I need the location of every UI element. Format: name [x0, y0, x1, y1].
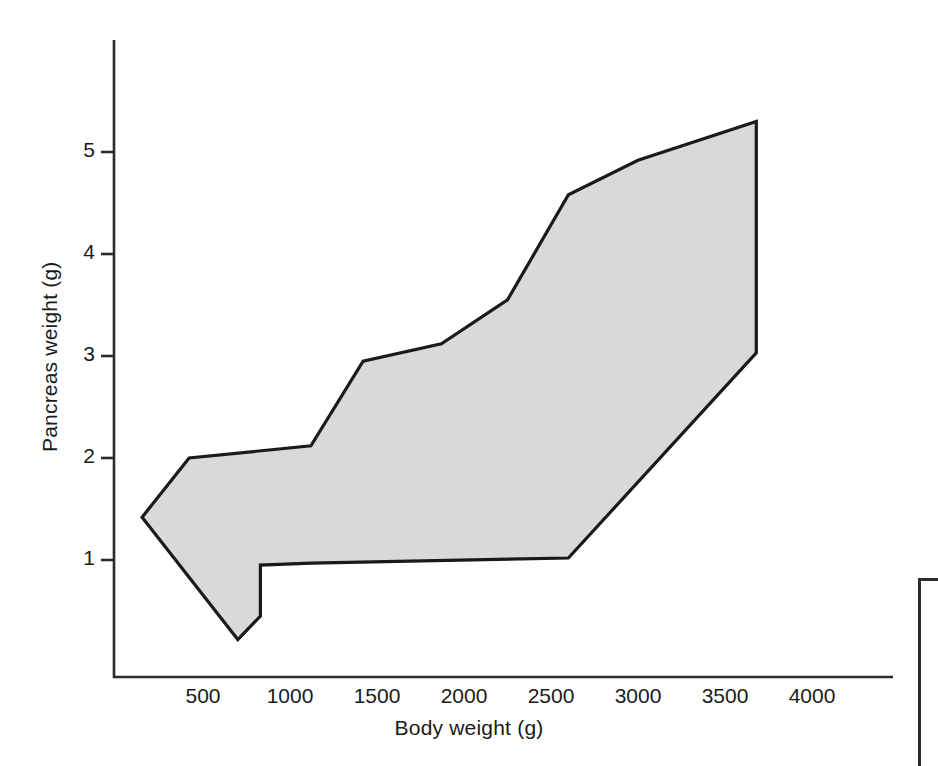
figure-panel: 5001000150020002500300035004000 12345 Bo… [0, 0, 938, 766]
x-tick-label-3000: 3000 [593, 684, 683, 708]
y-tick-label-4: 4 [55, 240, 95, 264]
y-tick-label-1: 1 [55, 546, 95, 570]
x-tick-label-3500: 3500 [680, 684, 770, 708]
x-tick-label-2500: 2500 [506, 684, 596, 708]
y-axis-tick-marks [101, 152, 114, 560]
chart-canvas [0, 0, 938, 766]
y-axis-title: Pancreas weight (g) [38, 261, 62, 452]
x-axis-title: Body weight (g) [0, 716, 938, 740]
adjacent-figure-frame-top [918, 578, 938, 581]
y-tick-label-5: 5 [55, 138, 95, 162]
x-tick-label-1500: 1500 [332, 684, 422, 708]
x-tick-label-2000: 2000 [419, 684, 509, 708]
x-tick-label-1000: 1000 [245, 684, 335, 708]
x-tick-label-500: 500 [158, 684, 248, 708]
x-tick-label-4000: 4000 [767, 684, 857, 708]
shaded-band-area [142, 121, 756, 639]
